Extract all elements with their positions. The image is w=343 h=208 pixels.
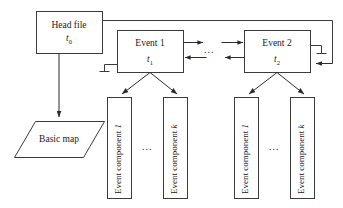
head-file-box [37, 12, 103, 54]
basic-map-parallelogram [15, 122, 105, 158]
head-file-feedback-rail [103, 21, 333, 64]
component-box-g1-first [108, 98, 132, 199]
component-box-g2-last [291, 98, 315, 199]
event1-to-component-g1-last-arrow [150, 73, 177, 95]
diagram-vector-layer [0, 0, 343, 208]
event-1-box [118, 31, 184, 73]
component-box-g2-first [235, 98, 259, 199]
event-1-self-loop [100, 65, 118, 72]
event2-to-component-g2-first-arrow [249, 73, 277, 95]
event-2-box [245, 31, 311, 73]
diagram-canvas: Head file t0 Basic map Event 1 t1 Event … [0, 0, 343, 208]
event2-to-component-g2-last-arrow [277, 73, 304, 95]
event1-to-component-g1-first-arrow [122, 73, 150, 95]
event-2-self-loop [311, 46, 327, 54]
component-box-g1-last [164, 98, 188, 199]
